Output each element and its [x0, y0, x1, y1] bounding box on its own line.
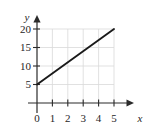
- figure-root: 5 10 15 20 0 1 2 3 4 5 y x: [0, 0, 150, 133]
- y-tick-label-15: 15: [20, 41, 32, 53]
- x-tick-label-3: 3: [80, 112, 86, 124]
- x-tick-label-4: 4: [96, 112, 102, 124]
- line-chart: 5 10 15 20 0 1 2 3 4 5 y x: [0, 0, 150, 133]
- y-tick-label-10: 10: [20, 60, 32, 72]
- x-tick-label-5: 5: [111, 112, 117, 124]
- x-tick-label-2: 2: [65, 112, 71, 124]
- y-tick-label-5: 5: [26, 78, 32, 90]
- y-tick-label-20: 20: [20, 23, 32, 35]
- x-axis-label: x: [137, 112, 143, 124]
- x-tick-label-0: 0: [34, 112, 40, 124]
- y-axis-label: y: [24, 11, 30, 23]
- x-tick-label-1: 1: [50, 112, 56, 124]
